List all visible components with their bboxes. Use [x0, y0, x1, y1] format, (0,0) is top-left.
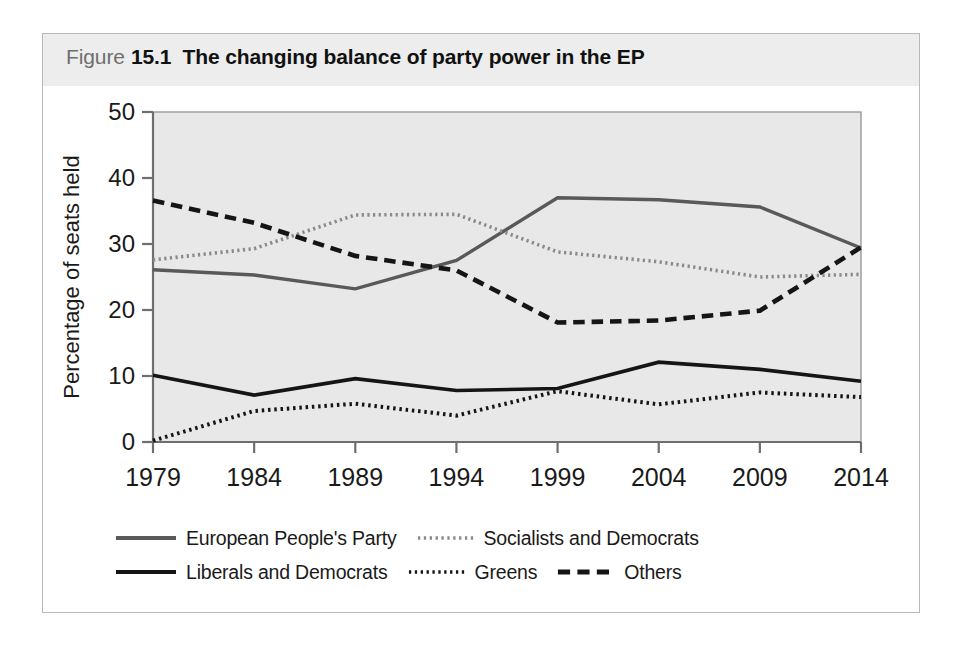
figure-caption-word: Figure	[66, 45, 125, 68]
y-axis-title: Percentage of seats held	[59, 155, 84, 398]
y-tick-label: 10	[108, 362, 135, 389]
y-tick-label: 30	[108, 230, 135, 257]
x-tick-label: 2014	[833, 463, 889, 491]
line-chart: 01020304050Percentage of seats held19791…	[43, 86, 921, 516]
x-tick-label: 1989	[327, 463, 383, 491]
legend-entry[interactable]: European People's Party	[115, 527, 417, 550]
y-tick-label: 50	[108, 98, 135, 125]
figure-caption: Figure15.1The changing balance of party …	[66, 45, 645, 69]
line-swatch-dotted-black	[408, 565, 466, 579]
legend-row: Liberals and DemocratsGreensOthers	[115, 555, 855, 589]
figure-caption-number: 15.1	[131, 45, 171, 68]
line-swatch-dashed-black	[557, 565, 615, 579]
legend-label: European People's Party	[186, 527, 397, 550]
legend-label: Others	[624, 561, 681, 584]
legend-entry[interactable]: Socialists and Democrats	[417, 527, 719, 550]
legend-label: Liberals and Democrats	[186, 561, 388, 584]
figure-screenshot: Figure15.1The changing balance of party …	[0, 0, 964, 663]
y-tick-label: 20	[108, 296, 135, 323]
y-tick-label: 40	[108, 164, 135, 191]
legend-row: European People's PartySocialists and De…	[115, 521, 855, 555]
x-tick-label: 2004	[631, 463, 687, 491]
figure-caption-title: The changing balance of party power in t…	[182, 45, 644, 68]
chart-legend: European People's PartySocialists and De…	[115, 521, 855, 589]
line-swatch-dotted-gray	[417, 531, 475, 545]
figure-card: Figure15.1The changing balance of party …	[42, 33, 920, 613]
legend-label: Socialists and Democrats	[484, 527, 699, 550]
y-tick-label: 0	[122, 428, 135, 455]
legend-entry[interactable]: Liberals and Democrats	[115, 561, 408, 584]
line-swatch-solid-black	[115, 565, 177, 579]
x-tick-label: 1994	[429, 463, 485, 491]
x-tick-label: 1979	[125, 463, 181, 491]
line-swatch-solid-gray	[115, 531, 177, 545]
x-tick-label: 1999	[530, 463, 586, 491]
legend-entry[interactable]: Others	[557, 561, 701, 584]
legend-entry[interactable]: Greens	[408, 561, 558, 584]
legend-label: Greens	[475, 561, 538, 584]
x-tick-label: 2009	[732, 463, 788, 491]
figure-header-band: Figure15.1The changing balance of party …	[43, 34, 919, 86]
x-tick-label: 1984	[226, 463, 282, 491]
